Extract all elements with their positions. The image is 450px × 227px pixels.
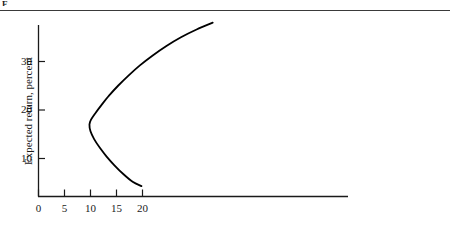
y-tick-label-20: 20 <box>10 104 32 115</box>
y-tick-label-10: 10 <box>10 153 32 164</box>
x-tick-label-10: 10 <box>81 203 101 214</box>
frontier-curve <box>89 23 212 186</box>
x-tick-label-15: 15 <box>107 203 127 214</box>
x-tick-label-0: 0 <box>29 203 49 214</box>
figure-root: F Expected return, percent 30 20 10 0 5 … <box>0 0 450 227</box>
y-tick-label-30: 30 <box>10 56 32 67</box>
chart-plot-area <box>0 0 450 227</box>
x-tick-label-5: 5 <box>55 203 75 214</box>
x-tick-label-20: 20 <box>133 203 153 214</box>
